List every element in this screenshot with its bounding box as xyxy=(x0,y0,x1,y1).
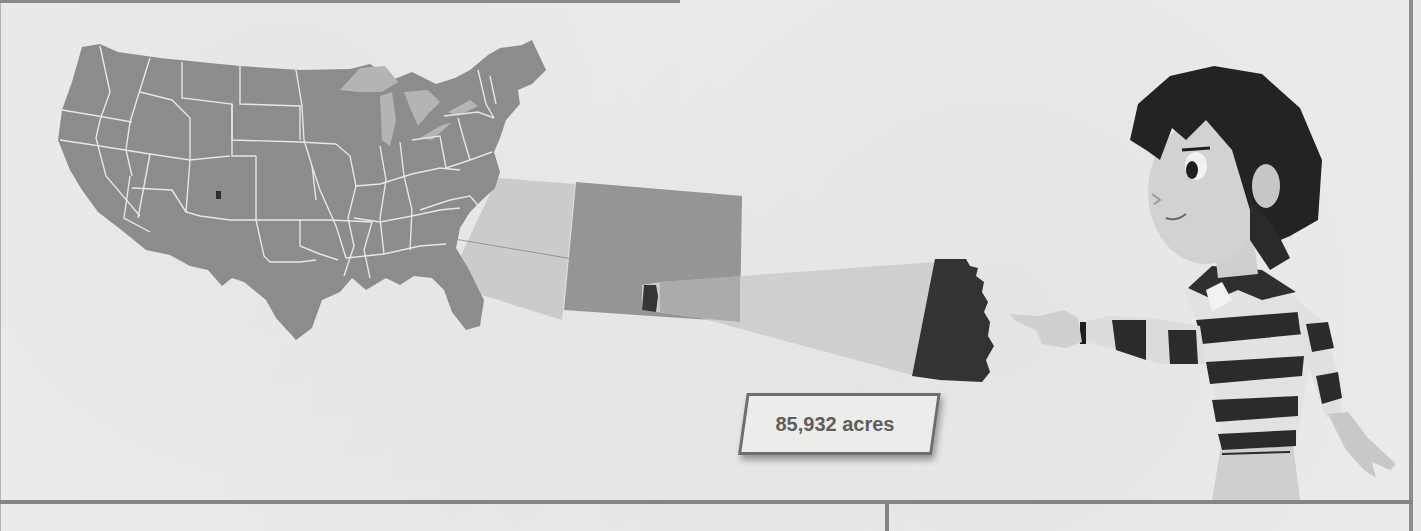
us-outline xyxy=(58,40,546,340)
cartoon-character xyxy=(1010,66,1396,500)
textbook-page: 85,932 acres xyxy=(0,0,1421,531)
callout-label: 85,932 acres xyxy=(738,393,932,455)
zoom-map-diagram xyxy=(0,0,1421,531)
us-map xyxy=(58,40,546,340)
area-callout: 85,932 acres xyxy=(738,393,938,457)
tiny-county-marker xyxy=(216,191,221,199)
small-county xyxy=(642,285,658,312)
